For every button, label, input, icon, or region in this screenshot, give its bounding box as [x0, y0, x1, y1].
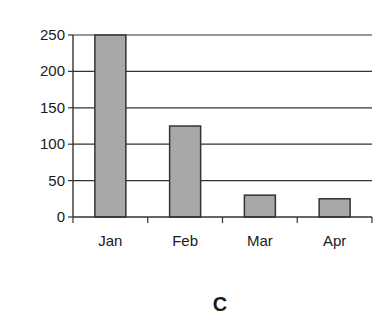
y-tick-label: 250	[40, 26, 65, 43]
y-tick-label: 150	[40, 99, 65, 116]
bars	[95, 35, 350, 217]
bar-chart: 050100150200250 JanFebMarApr	[0, 0, 390, 325]
bar-jan	[95, 35, 126, 217]
x-tick-labels: JanFebMarApr	[98, 232, 346, 249]
y-tick-label: 50	[48, 172, 65, 189]
bar-mar	[244, 195, 275, 217]
y-tick-label: 0	[57, 208, 65, 225]
x-tick-label: Apr	[323, 232, 346, 249]
bar-apr	[319, 199, 350, 217]
x-tick-label: Feb	[172, 232, 198, 249]
y-tick-labels: 050100150200250	[40, 26, 65, 225]
y-tick-label: 200	[40, 62, 65, 79]
x-tick-label: Jan	[98, 232, 122, 249]
bar-feb	[170, 126, 201, 217]
panel-label: C	[0, 293, 390, 316]
x-tick-label: Mar	[247, 232, 273, 249]
y-tick-label: 100	[40, 135, 65, 152]
